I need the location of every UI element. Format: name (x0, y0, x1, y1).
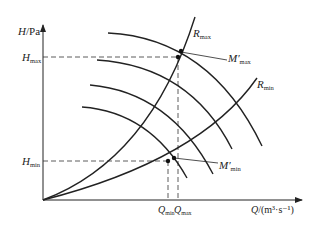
m-max-leader (181, 52, 227, 60)
h-min-label: Hmin (21, 155, 41, 168)
operating-point-min-a (166, 159, 170, 163)
pump-curve-1 (108, 33, 262, 146)
q-min-label: Qmin (158, 204, 175, 216)
operating-point-min-b (172, 156, 176, 160)
y-axis-label: H/Pa (17, 25, 40, 37)
pump-curve-4 (82, 107, 187, 178)
system-curves (43, 17, 257, 200)
m-min-leader (174, 158, 218, 163)
q-max-label: Qmax (174, 204, 192, 216)
m-min-label: M′min (218, 159, 241, 172)
x-axis-label: Q/(m³·s⁻¹) (251, 204, 294, 216)
m-max-label: M′max (227, 52, 252, 65)
r-max-curve (43, 17, 195, 200)
pump-curve-2 (97, 60, 232, 149)
r-max-label: Rmax (192, 27, 212, 40)
operating-point-max-a (179, 49, 183, 53)
pump-operating-diagram: H/Pa Hmax Hmin Qmin Qmax Q/(m³·s⁻¹) Rmax… (0, 0, 315, 232)
h-max-label: Hmax (21, 51, 42, 64)
operating-point-max-b (176, 55, 180, 59)
r-min-curve (43, 78, 257, 200)
r-min-label: Rmin (256, 78, 275, 91)
